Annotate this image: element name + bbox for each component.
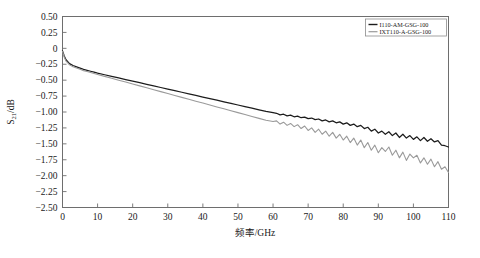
y-tick-label: −1.00 (36, 107, 58, 117)
x-tick-label: 110 (442, 212, 456, 222)
x-tick-label: 0 (60, 212, 65, 222)
y-tick-label: −2.50 (36, 203, 58, 213)
y-tick-label: −0.25 (36, 59, 58, 69)
x-tick-label: 60 (268, 212, 278, 222)
x-tick-label: 50 (233, 212, 243, 222)
chart-figure: 0.500.250−0.25−0.50−0.75−1.00−1.25−1.50−… (0, 0, 480, 258)
y-tick-label: 0.50 (41, 12, 58, 22)
y-tick-label: −0.75 (36, 91, 58, 101)
x-tick-label: 90 (374, 212, 384, 222)
x-tick-label: 70 (303, 212, 313, 222)
chart-legend: I110-AM-GSG-100IXT110-A-GSG-100 (366, 19, 447, 36)
y-tick-label: −0.50 (36, 75, 58, 85)
svg-text:S21/dB: S21/dB (6, 99, 17, 125)
y-tick-label: 0 (53, 44, 58, 54)
legend-label-1: I110-AM-GSG-100 (380, 21, 429, 28)
x-tick-label: 100 (406, 212, 421, 222)
legend-label-2: IXT110-A-GSG-100 (380, 28, 432, 35)
x-tick-label: 30 (163, 212, 173, 222)
x-tick-label: 80 (338, 212, 348, 222)
s21-line-chart: 0.500.250−0.25−0.50−0.75−1.00−1.25−1.50−… (0, 0, 480, 258)
x-tick-label: 10 (93, 212, 103, 222)
y-tick-label: −1.50 (36, 139, 58, 149)
x-tick-label: 20 (128, 212, 138, 222)
x-tick-label: 40 (198, 212, 208, 222)
y-tick-label: −1.25 (36, 123, 58, 133)
y-tick-label: 0.25 (41, 28, 58, 38)
y-tick-label: −2.25 (36, 187, 58, 197)
y-tick-label: −2.00 (36, 171, 58, 181)
y-tick-label: −1.75 (36, 155, 58, 165)
x-axis-title: 频率/GHz (235, 227, 276, 238)
svg-text:频率/GHz: 频率/GHz (235, 227, 276, 238)
y-axis-title: S21/dB (6, 99, 17, 125)
